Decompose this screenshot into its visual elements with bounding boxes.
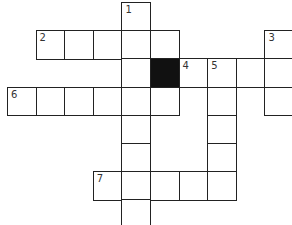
- crossword-cell-r6-c3[interactable]: 7: [93, 171, 123, 201]
- crossword-cell-r3-c0[interactable]: 6: [7, 87, 37, 117]
- crossword-cell-r7-c4[interactable]: [121, 199, 151, 225]
- crossword-cell-r3-c2[interactable]: [64, 87, 94, 117]
- crossword-cell-r2-c6[interactable]: 4: [179, 58, 209, 88]
- crossword-grid: 1234567: [0, 0, 292, 225]
- crossword-cell-r6-c7[interactable]: [207, 171, 237, 201]
- crossword-cell-r3-c7[interactable]: [207, 87, 237, 117]
- crossword-cell-r3-c9[interactable]: [264, 87, 292, 117]
- crossword-cell-r5-c7[interactable]: [207, 143, 237, 173]
- clue-number: 6: [11, 89, 17, 100]
- crossword-cell-r4-c4[interactable]: [121, 115, 151, 145]
- crossword-cell-r1-c4[interactable]: [121, 30, 151, 60]
- black-cell: [150, 58, 180, 88]
- crossword-cell-r0-c4[interactable]: 1: [121, 2, 151, 32]
- crossword-cell-r5-c4[interactable]: [121, 143, 151, 173]
- crossword-cell-r1-c3[interactable]: [93, 30, 123, 60]
- crossword-cell-r6-c4[interactable]: [121, 171, 151, 201]
- crossword-cell-r2-c7[interactable]: 5: [207, 58, 237, 88]
- crossword-cell-r1-c5[interactable]: [150, 30, 180, 60]
- crossword-cell-r4-c7[interactable]: [207, 115, 237, 145]
- clue-number: 1: [125, 4, 131, 15]
- clue-number: 2: [40, 32, 46, 43]
- crossword-cell-r2-c4[interactable]: [121, 58, 151, 88]
- clue-number: 4: [183, 60, 189, 71]
- clue-number: 3: [268, 32, 274, 43]
- clue-number: 5: [211, 60, 217, 71]
- crossword-cell-r6-c5[interactable]: [150, 171, 180, 201]
- crossword-cell-r1-c9[interactable]: 3: [264, 30, 292, 60]
- crossword-cell-r3-c1[interactable]: [36, 87, 66, 117]
- crossword-cell-r1-c2[interactable]: [64, 30, 94, 60]
- crossword-cell-r1-c1[interactable]: 2: [36, 30, 66, 60]
- crossword-cell-r2-c8[interactable]: [236, 58, 266, 88]
- clue-number: 7: [97, 173, 103, 184]
- crossword-cell-r3-c5[interactable]: [150, 87, 180, 117]
- crossword-cell-r2-c9[interactable]: [264, 58, 292, 88]
- crossword-cell-r3-c3[interactable]: [93, 87, 123, 117]
- crossword-cell-r3-c4[interactable]: [121, 87, 151, 117]
- crossword-cell-r6-c6[interactable]: [179, 171, 209, 201]
